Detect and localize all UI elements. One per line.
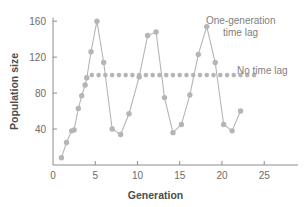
data-series-group	[59, 18, 257, 160]
data-point-marker	[238, 108, 243, 113]
x-tick-label: 0	[50, 170, 56, 181]
data-point-marker	[117, 73, 122, 78]
x-tick-label: 20	[216, 170, 228, 181]
data-point-marker	[153, 29, 158, 34]
data-point-marker	[157, 73, 162, 78]
data-point-marker	[179, 122, 184, 127]
data-point-marker	[211, 73, 216, 78]
data-point-marker	[96, 73, 101, 78]
no-time-lag-label: No time lag	[237, 65, 288, 76]
x-tick-label: 25	[259, 170, 271, 181]
one-generation-time-lag-label-line1: One-generation	[206, 15, 276, 26]
y-tick-label: 80	[35, 88, 47, 99]
data-point-marker	[90, 73, 95, 78]
data-point-marker	[229, 128, 234, 133]
series-no-time-lag	[90, 73, 257, 78]
data-point-marker	[59, 155, 64, 160]
data-point-marker	[150, 73, 155, 78]
data-point-marker	[123, 73, 128, 78]
data-point-marker	[109, 126, 114, 131]
data-point-marker	[204, 73, 209, 78]
x-tick-label: 5	[92, 170, 98, 181]
x-axis-ticks: 0510152025	[50, 161, 270, 181]
data-point-marker	[71, 127, 76, 132]
data-point-marker	[88, 49, 93, 54]
data-point-marker	[79, 93, 84, 98]
data-point-marker	[101, 60, 106, 65]
data-point-marker	[196, 52, 201, 57]
series-line	[61, 21, 240, 158]
data-point-marker	[84, 75, 89, 80]
x-tick-label: 10	[132, 170, 144, 181]
data-point-marker	[144, 73, 149, 78]
x-tick-label: 15	[174, 170, 186, 181]
one-generation-time-lag-label-line2: time lag	[223, 27, 258, 38]
axis-lines	[53, 18, 298, 165]
data-point-marker	[191, 73, 196, 78]
data-point-marker	[103, 73, 108, 78]
data-point-marker	[225, 73, 230, 78]
data-point-marker	[171, 73, 176, 78]
data-point-marker	[218, 73, 223, 78]
y-axis-title: Population size	[8, 53, 20, 130]
data-point-marker	[177, 73, 182, 78]
data-point-marker	[162, 95, 167, 100]
data-point-marker	[94, 18, 99, 23]
series-one-generation-time-lag	[59, 18, 244, 160]
x-axis-title: Generation	[128, 189, 183, 201]
data-point-marker	[130, 73, 135, 78]
data-point-marker	[164, 73, 169, 78]
data-point-marker	[110, 73, 115, 78]
data-point-marker	[231, 73, 236, 78]
legend-group: One-generation time lag No time lag	[206, 15, 288, 76]
data-point-marker	[64, 140, 69, 145]
data-point-marker	[170, 130, 175, 135]
data-point-marker	[213, 60, 218, 65]
y-tick-label: 160	[29, 16, 46, 27]
data-point-marker	[126, 111, 131, 116]
data-point-marker	[145, 33, 150, 38]
y-tick-label: 120	[29, 52, 46, 63]
chart-container: 0510152025 4080120160 Generation Populat…	[0, 0, 306, 207]
data-point-marker	[82, 82, 87, 87]
data-point-marker	[184, 73, 189, 78]
data-point-marker	[76, 106, 81, 111]
data-point-marker	[221, 122, 226, 127]
data-point-marker	[118, 132, 123, 137]
data-point-marker	[187, 92, 192, 97]
y-tick-label: 40	[35, 124, 47, 135]
data-point-marker	[137, 73, 142, 78]
data-point-marker	[198, 73, 203, 78]
population-size-line-chart: 0510152025 4080120160 Generation Populat…	[0, 0, 306, 207]
